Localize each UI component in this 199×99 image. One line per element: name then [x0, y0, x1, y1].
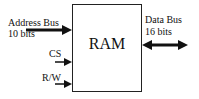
data-bus-label: Data Bus [145, 14, 182, 25]
rw-label: R/W [42, 72, 61, 83]
address-bus-label: Address Bus [8, 17, 59, 28]
cs-arrow [55, 58, 72, 66]
data-bus-width: 16 bits [145, 26, 172, 37]
data-bus-arrow [142, 40, 188, 50]
cs-label: CS [49, 48, 61, 59]
ram-label: RAM [72, 35, 142, 53]
address-bus-width: 10 bits [8, 28, 35, 39]
